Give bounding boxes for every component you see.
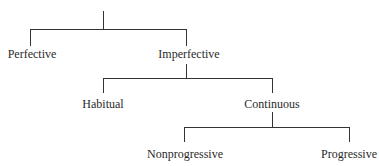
continuous-drop (272, 78, 273, 93)
node-continuous: Continuous (244, 98, 299, 110)
root-branch (30, 29, 187, 30)
node-perfective: Perfective (8, 48, 57, 60)
progressive-drop (349, 127, 350, 142)
aspect-tree-diagram: Perfective Imperfective Habitual Continu… (0, 0, 379, 166)
root-stem (103, 11, 104, 29)
node-imperfective: Imperfective (158, 48, 219, 60)
nonprogressive-drop (184, 127, 185, 142)
node-nonprogressive: Nonprogressive (147, 148, 223, 160)
imperfective-stem (186, 64, 187, 78)
imperfective-drop (186, 29, 187, 46)
habitual-drop (103, 78, 104, 93)
imperfective-branch (103, 78, 273, 79)
node-habitual: Habitual (82, 98, 123, 110)
perfective-drop (30, 29, 31, 46)
continuous-branch (184, 127, 350, 128)
node-progressive: Progressive (321, 148, 377, 160)
continuous-stem (272, 112, 273, 127)
